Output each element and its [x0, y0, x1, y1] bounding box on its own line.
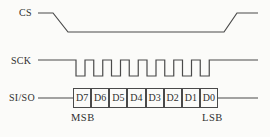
bit-cell-d4: D4 — [127, 88, 145, 108]
msb-label: MSB — [71, 112, 95, 124]
sck-waveform — [38, 60, 258, 76]
bit-cell-d5: D5 — [109, 88, 127, 108]
data-bit-cells: D7D6D5D4D3D2D1D0 — [73, 88, 218, 108]
bit-cell-d0: D0 — [200, 88, 218, 108]
bit-cell-d2: D2 — [164, 88, 182, 108]
waveforms — [0, 0, 270, 137]
lsb-label: LSB — [202, 112, 223, 124]
cs-waveform — [38, 13, 258, 32]
bit-cell-d1: D1 — [182, 88, 200, 108]
bit-cell-d3: D3 — [146, 88, 164, 108]
timing-diagram: CS SCK SI/SO D7D6D5D4D3D2D1D0 MSB LSB — [0, 0, 270, 137]
bit-cell-d7: D7 — [73, 88, 91, 108]
bit-cell-d6: D6 — [91, 88, 109, 108]
